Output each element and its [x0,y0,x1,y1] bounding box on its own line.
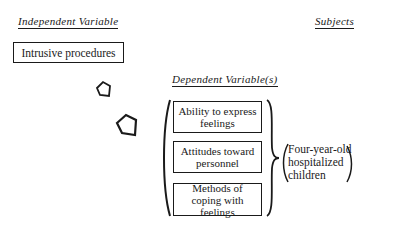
independent-variable-label: Intrusive procedures [21,47,115,59]
subjects-description: Four-year-old hospitalized children [288,143,351,182]
dependent-variables-heading: Dependent Variable(s) [172,73,278,87]
independent-variable-box: Intrusive procedures [13,42,124,63]
independent-variable-heading: Independent Variable [18,15,118,29]
subjects-line: children [288,169,351,182]
dependent-variable-label: Attitudes toward personnel [177,145,258,169]
dependent-variable-box: Methods of coping with feelings [173,183,262,216]
dependent-variable-label: Ability to express feelings [177,105,258,129]
subjects-heading: Subjects [315,15,354,29]
subjects-line: Four-year-old [288,143,351,156]
subjects-line: hospitalized [288,156,351,169]
right-brace-icon [265,98,281,218]
subjects-right-paren-icon [346,145,354,183]
arrow-small-icon [94,80,114,100]
left-parenthesis-icon [160,98,172,218]
dependent-variable-label: Methods of coping with feelings [177,182,258,218]
dependent-variable-box: Ability to express feelings [173,101,262,133]
dependent-variable-box: Attitudes toward personnel [173,141,262,173]
arrow-large-icon [114,112,142,140]
